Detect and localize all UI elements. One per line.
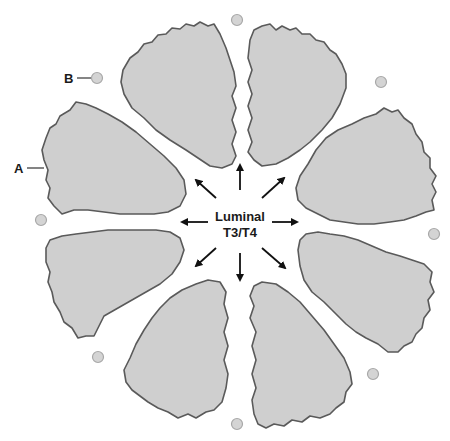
arrow-up-left-icon xyxy=(196,180,216,198)
arrow-down-right-icon xyxy=(262,248,285,268)
arrow-down-left-icon xyxy=(196,248,216,266)
cell-bottom-left xyxy=(124,280,228,418)
arrow-up-right-icon xyxy=(262,178,284,198)
follicle-diagram: Luminal T3/T4 A B xyxy=(0,0,450,441)
label-a: A xyxy=(14,161,24,176)
center-label-line2: T3/T4 xyxy=(223,225,258,240)
center-label-line1: Luminal xyxy=(215,209,265,224)
label-b: B xyxy=(64,71,73,86)
